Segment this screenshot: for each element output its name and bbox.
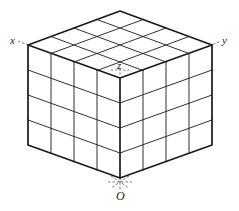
isometric-cube-diagram: [0, 0, 239, 211]
z-axis-label: z: [117, 60, 121, 71]
y-axis-label: y: [222, 35, 227, 46]
x-axis-label: x: [10, 35, 15, 46]
origin-marker: [108, 176, 132, 190]
origin-label: O: [116, 190, 125, 202]
y-axis-leader: [209, 41, 221, 46]
figure-canvas: x y z O: [0, 0, 239, 211]
